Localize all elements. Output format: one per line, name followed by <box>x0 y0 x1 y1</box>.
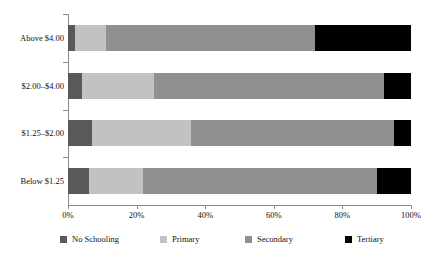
legend-label: No Schooling <box>72 234 119 245</box>
x-axis-tick-label: 80% <box>335 210 351 221</box>
x-axis-tick-label: 0% <box>62 210 73 221</box>
legend-label: Secondary <box>257 234 293 245</box>
bar-segment-secondary <box>143 168 376 194</box>
legend-item-secondary[interactable]: Secondary <box>245 234 293 245</box>
x-axis-tick-label: 60% <box>266 210 282 221</box>
bar-segment-no-schooling <box>68 120 92 146</box>
legend-swatch-icon <box>60 236 67 243</box>
bar-segment-tertiary <box>394 120 411 146</box>
bar-row <box>68 120 411 146</box>
bar-segment-no-schooling <box>68 168 89 194</box>
x-axis-line <box>68 205 412 206</box>
y-axis-labels: Above $4.00$2.00–$4.00$1.25–$2.00Below $… <box>0 14 64 205</box>
legend-swatch-icon <box>345 236 352 243</box>
x-axis-tick-labels: 0%20%40%60%80%100% <box>0 210 430 224</box>
bar-row <box>68 25 411 51</box>
legend-item-no-schooling[interactable]: No Schooling <box>60 234 119 245</box>
x-axis-tick <box>205 205 206 209</box>
x-axis-tick <box>342 205 343 209</box>
bar-segment-tertiary <box>384 73 411 99</box>
x-axis-tick <box>411 205 412 209</box>
bar-segment-primary <box>82 73 154 99</box>
legend-label: Primary <box>172 234 199 245</box>
bar-row <box>68 73 411 99</box>
bar-segment-secondary <box>154 73 384 99</box>
bar-segment-secondary <box>106 25 315 51</box>
x-axis-tick <box>274 205 275 209</box>
x-axis-tick <box>137 205 138 209</box>
y-axis-label: Above $4.00 <box>2 33 64 43</box>
bar-segment-primary <box>75 25 106 51</box>
stacked-bar-chart: Above $4.00$2.00–$4.00$1.25–$2.00Below $… <box>0 0 430 262</box>
x-axis-tick-label: 20% <box>129 210 145 221</box>
legend-label: Tertiary <box>357 234 384 245</box>
bar-segment-no-schooling <box>68 73 82 99</box>
bar-segment-tertiary <box>315 25 411 51</box>
bar-segment-secondary <box>191 120 393 146</box>
y-axis-label: Below $1.25 <box>2 176 64 186</box>
bar-segment-no-schooling <box>68 25 75 51</box>
bar-row <box>68 168 411 194</box>
bar-segment-primary <box>89 168 144 194</box>
legend-item-tertiary[interactable]: Tertiary <box>345 234 384 245</box>
bar-segment-primary <box>92 120 191 146</box>
x-axis-tick-label: 40% <box>197 210 213 221</box>
plot-area <box>68 14 411 205</box>
x-axis-tick <box>68 205 69 209</box>
y-axis-label: $1.25–$2.00 <box>2 128 64 138</box>
legend-item-primary[interactable]: Primary <box>160 234 199 245</box>
legend-swatch-icon <box>160 236 167 243</box>
chart-legend: No SchoolingPrimarySecondaryTertiary <box>0 234 430 250</box>
bar-segment-tertiary <box>377 168 411 194</box>
y-axis-label: $2.00–$4.00 <box>2 81 64 91</box>
x-axis-tick-label: 100% <box>401 210 421 221</box>
legend-swatch-icon <box>245 236 252 243</box>
